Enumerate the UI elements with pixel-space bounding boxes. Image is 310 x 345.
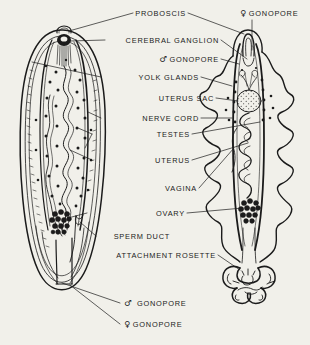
label-ovary: OVARY xyxy=(156,209,185,218)
leader-male-gonopore-bottom xyxy=(62,283,120,303)
label-female-gonopore-bottom: ♀ GONOPORE xyxy=(124,320,182,329)
label-male-gonopore-mid: ♂ GONOPORE xyxy=(159,55,219,64)
right-proboscis xyxy=(243,34,254,56)
leader-female-gonopore-bottom xyxy=(70,285,120,324)
leader-proboscis-left xyxy=(69,13,133,31)
leader-proboscis-right xyxy=(188,13,244,34)
label-sperm-duct: SPERM DUCT xyxy=(114,232,170,241)
label-proboscis: PROBOSCIS xyxy=(135,9,186,18)
female-symbol-icon: ♀ xyxy=(240,8,246,18)
figure-canvas: PROBOSCIS ♀ GONOPORE CEREBRAL GANGLION ♂… xyxy=(0,0,310,345)
label-yolk-glands: YOLK GLANDS xyxy=(139,73,199,82)
left-organism xyxy=(20,26,105,290)
anatomy-illustration xyxy=(0,0,310,345)
male-symbol-icon: ♂ xyxy=(124,298,131,308)
label-uterus-sac: UTERUS SAC xyxy=(159,94,214,103)
right-uterus-sac-duct xyxy=(241,75,257,90)
left-proboscis-fibres xyxy=(57,45,71,66)
leader-ovary-right xyxy=(187,208,243,213)
leader-cerebral-ganglion-left xyxy=(70,40,105,41)
label-attachment-rosette: ATTACHMENT ROSETTE xyxy=(116,251,216,260)
leader-nerve-cord-left xyxy=(88,112,101,118)
left-body-wall-inner xyxy=(25,36,100,282)
left-nerve-cord-right xyxy=(76,40,88,230)
label-cerebral-ganglion: CEREBRAL GANGLION xyxy=(126,36,219,45)
leader-uterus-right xyxy=(192,143,248,160)
label-nerve-cord: NERVE CORD xyxy=(142,114,199,123)
right-peduncle xyxy=(242,228,256,263)
right-proboscis-neck xyxy=(243,58,254,66)
male-symbol-icon: ♂ xyxy=(159,54,166,64)
label-testes: TESTES xyxy=(157,130,190,139)
female-symbol-icon: ♀ xyxy=(124,319,130,329)
label-vagina: VAGINA xyxy=(165,184,197,193)
left-tegument-band xyxy=(29,41,96,276)
left-genital-tube xyxy=(56,238,72,284)
label-uterus: UTERUS xyxy=(155,156,190,165)
left-ovary xyxy=(49,209,71,234)
leader-yolk-glands-right xyxy=(201,77,232,86)
right-organism xyxy=(200,30,294,303)
right-body-frill-right xyxy=(260,52,294,262)
label-male-gonopore-bottom: ♂ GONOPORE xyxy=(124,299,186,308)
right-uterus-sac xyxy=(237,90,261,112)
left-testes xyxy=(35,59,93,208)
label-female-gonopore-top: ♀ GONOPORE xyxy=(240,9,298,18)
